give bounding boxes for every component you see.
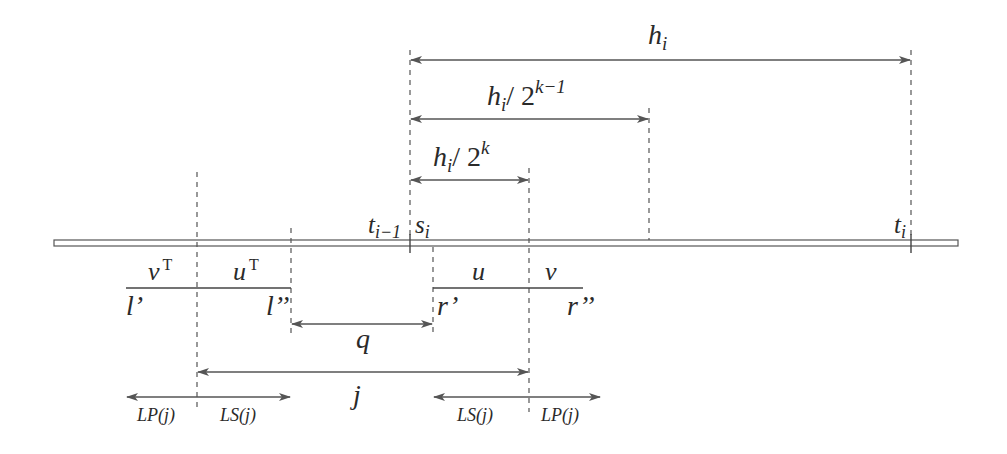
bottom-left-arrow: LP(j) LS(j) — [127, 397, 290, 426]
label-r-double-prime: r’’ — [567, 290, 594, 321]
interval-diagram: ti−1 si ti hi hi/ 2k−1 hi/ 2k vT uT — [0, 0, 1007, 454]
svg-text:j: j — [350, 379, 361, 410]
label-t-prev: ti−1 — [368, 211, 401, 242]
label-l-prime: l’ — [126, 290, 143, 321]
bottom-right-arrow: LS(j) LP(j) — [434, 397, 600, 426]
label-s-i: si — [415, 211, 430, 242]
label-t-i: ti — [894, 211, 906, 242]
span-h-half-k: hi/ 2k — [411, 137, 528, 180]
svg-text:LS(j): LS(j) — [456, 405, 493, 426]
label-l-double-prime: l’’ — [266, 290, 289, 321]
svg-text:v: v — [545, 257, 557, 286]
svg-text:hi/ 2k−1: hi/ 2k−1 — [487, 76, 566, 115]
svg-text:LP(j): LP(j) — [136, 405, 175, 426]
svg-text:vT: vT — [148, 256, 173, 286]
svg-text:LS(j): LS(j) — [219, 405, 256, 426]
svg-text:u: u — [472, 257, 485, 286]
svg-text:hi: hi — [648, 19, 667, 54]
left-segment: vT uT l’ l’’ — [126, 256, 291, 321]
span-h-half-k-minus-1: hi/ 2k−1 — [411, 76, 648, 119]
svg-text:q: q — [356, 323, 370, 354]
timeline-bar — [54, 240, 958, 246]
right-segment: u v r’ r’’ — [433, 257, 594, 321]
span-q: q — [292, 323, 432, 354]
label-r-prime: r’ — [437, 290, 458, 321]
svg-text:hi/ 2k: hi/ 2k — [433, 137, 490, 176]
svg-text:LP(j): LP(j) — [540, 405, 579, 426]
guide-lines — [197, 50, 911, 412]
svg-text:uT: uT — [233, 256, 259, 286]
span-h-i: hi — [411, 19, 910, 60]
